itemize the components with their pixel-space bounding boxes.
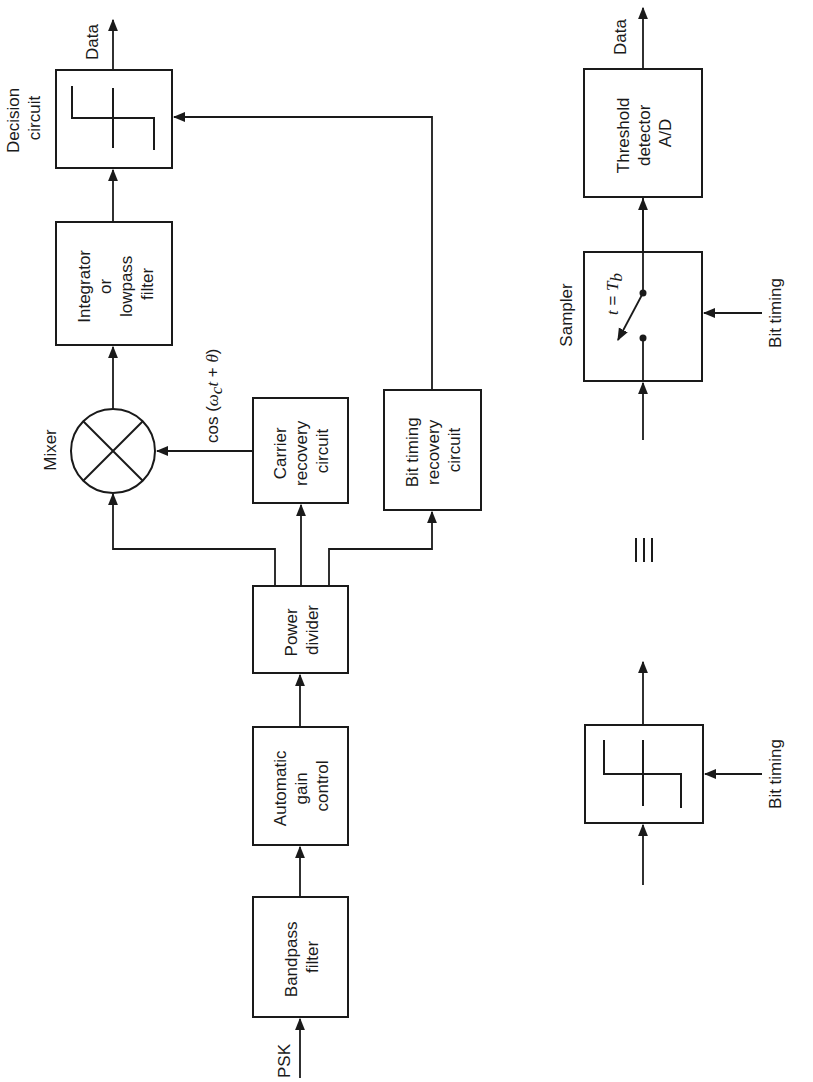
agc-label-1: Automatic <box>271 750 290 826</box>
integrator-label-2: or <box>96 278 115 293</box>
psk-input: PSK <box>275 1019 300 1078</box>
mixer: Mixer <box>41 409 155 493</box>
equivalence-symbol <box>636 538 652 562</box>
data-output-label-right: Data <box>611 19 630 55</box>
decision-label-2: circuit <box>25 96 44 141</box>
agc-block: Automatic gain control <box>253 727 348 845</box>
threshold-label-3: A/D <box>656 119 675 147</box>
bit-timing-recovery-label-3: circuit <box>445 428 464 473</box>
bit-timing-label-decision: Bit timing <box>766 739 785 809</box>
psk-receiver-diagram: PSK Bandpass filter Automatic gain contr… <box>0 0 813 1082</box>
carrier-signal-label: cos (ωct + θ) <box>203 348 226 443</box>
carrier-recovery-block: Carrier recovery circuit <box>253 398 348 503</box>
bit-timing-recovery-label-2: recovery <box>424 419 443 485</box>
mixer-label: Mixer <box>41 429 60 471</box>
carrier-recovery-label-2: recovery <box>292 420 311 486</box>
bit-timing-label-sampler: Bit timing <box>766 278 785 348</box>
integrator-block: Integrator or lowpass filter <box>56 222 172 345</box>
carrier-recovery-label-3: circuit <box>313 429 332 474</box>
decision-circuit-block: Decision circuit <box>4 70 172 168</box>
threshold-label-1: Threshold <box>614 98 633 174</box>
bandpass-label-2: filter <box>303 941 322 973</box>
threshold-detector-block: Threshold detector A/D <box>584 69 702 197</box>
power-divider-label-1: Power <box>282 608 301 657</box>
bandpass-label-1: Bandpass <box>282 922 301 998</box>
bit-timing-recovery-block: Bit timing recovery circuit <box>384 390 481 510</box>
psk-label: PSK <box>275 1043 294 1078</box>
data-output-label-left: Data <box>83 24 102 60</box>
sampler-block: t = Tb Sampler <box>557 197 702 381</box>
svg-text:Decision circuit: Decision circuit <box>4 83 44 153</box>
agc-label-2: gain <box>292 772 311 804</box>
integrator-label-3: lowpass <box>117 256 136 317</box>
carrier-recovery-label-1: Carrier <box>271 427 290 479</box>
bit-timing-recovery-label-1: Bit timing <box>403 417 422 487</box>
decision-label-1: Decision <box>4 88 23 153</box>
agc-label-3: control <box>313 760 332 811</box>
integrator-label-1: Integrator <box>75 250 94 323</box>
integrator-label-4: filter <box>138 268 157 300</box>
power-divider-label-2: divider <box>303 605 322 655</box>
bandpass-filter-block: Bandpass filter <box>253 897 348 1017</box>
power-divider-block: Power divider <box>253 586 348 673</box>
sampler-label: Sampler <box>557 283 576 347</box>
threshold-label-2: detector <box>635 104 654 166</box>
decision-equivalent-block <box>585 725 703 823</box>
